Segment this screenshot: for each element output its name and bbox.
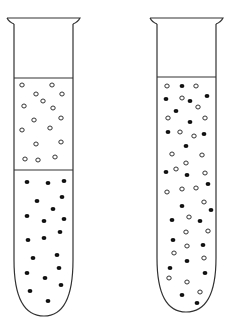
hollow-particle — [174, 167, 178, 171]
hollow-particle — [202, 200, 206, 204]
hollow-particle — [203, 116, 207, 120]
hollow-particle — [166, 116, 170, 120]
hollow-particle — [178, 130, 182, 134]
left-hollow-particles — [20, 83, 64, 162]
filled-particle — [164, 97, 169, 101]
filled-particle — [31, 256, 36, 260]
filled-particle — [180, 293, 185, 297]
hollow-particle — [180, 187, 184, 191]
left-filled-particles — [25, 179, 67, 303]
hollow-particle — [196, 105, 200, 109]
hollow-particle — [172, 251, 176, 255]
filled-particle — [59, 283, 64, 287]
filled-particle — [25, 214, 30, 218]
hollow-particle — [50, 83, 54, 87]
filled-particle — [60, 195, 65, 199]
filled-particle — [205, 94, 210, 98]
filled-particle — [26, 238, 31, 242]
hollow-particle — [198, 290, 202, 294]
filled-particle — [42, 219, 47, 223]
hollow-particle — [185, 280, 189, 284]
hollow-particle — [59, 140, 63, 144]
filled-particle — [180, 84, 185, 88]
filled-particle — [25, 271, 30, 275]
hollow-particle — [20, 128, 24, 132]
filled-particle — [185, 259, 190, 263]
hollow-particle — [206, 229, 210, 233]
hollow-particle — [32, 118, 36, 122]
filled-particle — [168, 266, 173, 270]
filled-particle — [51, 207, 56, 211]
filled-particle — [42, 236, 47, 240]
hollow-particle — [180, 96, 184, 100]
filled-particle — [198, 219, 203, 223]
filled-particle — [185, 173, 190, 177]
hollow-particle — [34, 92, 38, 96]
hollow-particle — [53, 155, 57, 159]
hollow-particle — [60, 92, 64, 96]
hollow-particle — [203, 171, 207, 175]
filled-particle — [166, 130, 171, 134]
filled-particle — [202, 132, 207, 136]
left-tube-rim — [7, 18, 80, 24]
hollow-particle — [22, 104, 26, 108]
hollow-particle — [185, 244, 189, 248]
filled-particle — [55, 253, 60, 257]
hollow-particle — [48, 126, 52, 130]
filled-particle — [203, 271, 208, 275]
filled-particle — [43, 276, 48, 280]
filled-particle — [58, 230, 63, 234]
filled-particle — [206, 182, 211, 186]
test-tubes-diagram — [0, 0, 231, 329]
hollow-particle — [194, 84, 198, 88]
filled-particle — [57, 266, 62, 270]
filled-particle — [46, 181, 51, 185]
filled-particle — [188, 99, 193, 103]
hollow-particle — [20, 83, 24, 87]
filled-particle — [209, 208, 214, 212]
filled-particle — [35, 199, 40, 203]
hollow-particle — [184, 161, 188, 165]
filled-particle — [171, 238, 176, 242]
filled-particle — [170, 218, 175, 222]
filled-particle — [174, 109, 179, 113]
hollow-particle — [192, 134, 196, 138]
right-tube-body — [157, 24, 216, 312]
filled-particle — [201, 243, 206, 247]
filled-particle — [28, 289, 33, 293]
hollow-particle — [170, 152, 174, 156]
hollow-particle — [202, 256, 206, 260]
hollow-particle — [51, 106, 55, 110]
hollow-particle — [23, 157, 27, 161]
hollow-particle — [59, 116, 63, 120]
left-tube — [7, 18, 80, 316]
filled-particle — [164, 170, 169, 174]
hollow-particle — [36, 158, 40, 162]
hollow-particle — [194, 186, 198, 190]
filled-particle — [46, 299, 51, 303]
hollow-particle — [165, 84, 169, 88]
hollow-particle — [34, 142, 38, 146]
hollow-particle — [167, 276, 171, 280]
hollow-particle — [41, 99, 45, 103]
hollow-particle — [165, 190, 169, 194]
filled-particle — [62, 217, 67, 221]
filled-particle — [62, 179, 67, 183]
filled-particle — [184, 144, 189, 148]
right-tube-rim — [150, 18, 223, 24]
hollow-particle — [187, 215, 191, 219]
filled-particle — [180, 204, 185, 208]
filled-particle — [195, 301, 200, 305]
hollow-particle — [184, 230, 188, 234]
hollow-particle — [200, 153, 204, 157]
filled-particle — [188, 120, 193, 124]
filled-particle — [25, 180, 30, 184]
